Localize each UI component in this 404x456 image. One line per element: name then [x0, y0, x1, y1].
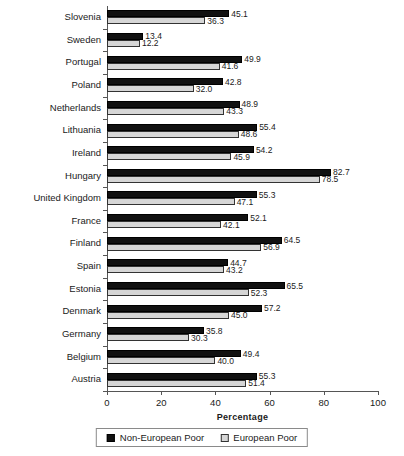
x-axis-tick-label: 40 [210, 397, 221, 408]
legend-label-european-poor: European Poor [233, 432, 297, 443]
bar-value-label: 43.3 [226, 107, 243, 116]
bar-european-poor: 32.0 [107, 85, 194, 92]
x-axis-tick-label: 20 [156, 397, 167, 408]
bar-non-european-poor: 54.2 [107, 146, 254, 153]
bar-non-european-poor: 44.7 [107, 259, 228, 266]
bar-group: Portugal49.941.6 [107, 51, 378, 74]
bar-group: Austria55.351.4 [107, 368, 378, 391]
x-axis-tick-label: 100 [370, 397, 386, 408]
y-axis-category-label: Lithuania [1, 119, 101, 142]
legend-label-non-european-poor: Non-European Poor [120, 432, 205, 443]
bar-group: Slovenia45.136.3 [107, 6, 378, 29]
bar-value-label: 47.1 [237, 197, 254, 206]
bar-group: Germany35.830.3 [107, 323, 378, 346]
x-axis-tick [215, 391, 216, 395]
bar-european-poor: 36.3 [107, 17, 205, 24]
y-axis-category-label: Netherlands [1, 97, 101, 120]
x-axis-tick [107, 391, 108, 395]
bar-european-poor: 45.9 [107, 153, 231, 160]
bar-value-label: 52.3 [251, 288, 268, 297]
y-axis-category-label: Germany [1, 323, 101, 346]
y-axis-category-label: Estonia [1, 278, 101, 301]
bar-group: Lithuania55.448.6 [107, 119, 378, 142]
bar-value-label: 45.0 [231, 311, 248, 320]
bar-group: Netherlands48.943.3 [107, 97, 378, 120]
bar-value-label: 48.9 [242, 100, 259, 109]
plot-area: Slovenia45.136.3Sweden13.412.2Portugal49… [107, 6, 378, 391]
bar-value-label: 45.9 [233, 152, 250, 161]
y-axis-category-label: Denmark [1, 300, 101, 323]
bar-group: Poland42.832.0 [107, 74, 378, 97]
bar-non-european-poor: 48.9 [107, 101, 240, 108]
bar-european-poor: 78.5 [107, 176, 320, 183]
x-axis-tick-label: 60 [264, 397, 275, 408]
x-axis-tick [324, 391, 325, 395]
legend-item-european-poor: European Poor [220, 432, 297, 443]
legend-swatch-icon-non-european-poor [107, 434, 115, 442]
bar-value-label: 78.5 [322, 175, 339, 184]
x-axis-tick [161, 391, 162, 395]
bar-value-label: 51.4 [248, 379, 265, 388]
bar-value-label: 41.6 [222, 62, 239, 71]
bar-european-poor: 52.3 [107, 289, 249, 296]
y-axis-category-label: Belgium [1, 346, 101, 369]
bar-value-label: 36.3 [207, 16, 224, 25]
bar-european-poor: 51.4 [107, 380, 246, 387]
bar-european-poor: 47.1 [107, 198, 235, 205]
bar-european-poor: 43.3 [107, 108, 224, 115]
bar-value-label: 52.1 [250, 213, 267, 222]
bar-value-label: 45.1 [231, 9, 248, 18]
bar-value-label: 12.2 [142, 39, 159, 48]
chart-legend: Non-European Poor European Poor [96, 428, 308, 447]
bar-european-poor: 12.2 [107, 40, 140, 47]
bar-group: Belgium49.440.0 [107, 346, 378, 369]
y-axis-category-label: Poland [1, 74, 101, 97]
bar-group: Ireland54.245.9 [107, 142, 378, 165]
bar-value-label: 49.4 [243, 349, 260, 358]
y-axis-category-label: Portugal [1, 51, 101, 74]
y-axis-category-label: Slovenia [1, 6, 101, 29]
bar-group: United Kingdom55.347.1 [107, 187, 378, 210]
y-axis-category-label: Austria [1, 368, 101, 391]
bar-group: Finland64.556.9 [107, 232, 378, 255]
bar-non-european-poor: 64.5 [107, 237, 282, 244]
x-axis-tick [270, 391, 271, 395]
bar-european-poor: 56.9 [107, 244, 261, 251]
legend-item-non-european-poor: Non-European Poor [107, 432, 205, 443]
bar-european-poor: 30.3 [107, 334, 189, 341]
bar-value-label: 55.3 [259, 190, 276, 199]
x-axis-title: Percentage [107, 412, 378, 422]
bar-value-label: 55.4 [259, 123, 276, 132]
y-axis-category-label: United Kingdom [1, 187, 101, 210]
x-axis-tick [378, 391, 379, 395]
y-axis-category-label: Hungary [1, 165, 101, 188]
bar-non-european-poor: 55.3 [107, 191, 257, 198]
bar-non-european-poor: 55.3 [107, 373, 257, 380]
bar-value-label: 30.3 [191, 333, 208, 342]
bar-non-european-poor: 55.4 [107, 124, 257, 131]
bar-group: Hungary82.778.5 [107, 165, 378, 188]
bar-european-poor: 45.0 [107, 312, 229, 319]
bar-value-label: 35.8 [206, 326, 223, 335]
y-axis-category-label: Sweden [1, 29, 101, 52]
bar-value-label: 42.1 [223, 220, 240, 229]
bar-group: Spain44.743.2 [107, 255, 378, 278]
bar-group: France52.142.1 [107, 210, 378, 233]
bar-value-label: 65.5 [287, 281, 304, 290]
bar-value-label: 48.6 [241, 130, 258, 139]
bar-value-label: 42.8 [225, 77, 242, 86]
bar-european-poor: 40.0 [107, 357, 215, 364]
bar-non-european-poor: 82.7 [107, 169, 331, 176]
legend-swatch-icon-european-poor [220, 434, 228, 442]
bar-chart: Slovenia45.136.3Sweden13.412.2Portugal49… [0, 0, 404, 456]
bar-non-european-poor: 35.8 [107, 327, 204, 334]
bar-group: Sweden13.412.2 [107, 29, 378, 52]
bar-non-european-poor: 13.4 [107, 33, 143, 40]
bar-european-poor: 48.6 [107, 131, 239, 138]
y-axis-category-label: Finland [1, 232, 101, 255]
y-axis-category-label: France [1, 210, 101, 233]
bar-value-label: 56.9 [263, 243, 280, 252]
x-axis-tick-label: 80 [319, 397, 330, 408]
bar-value-label: 40.0 [217, 356, 234, 365]
y-axis-category-label: Ireland [1, 142, 101, 165]
